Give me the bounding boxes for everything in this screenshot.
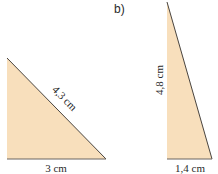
triangle-b-height-label: 4,8 cm [153, 65, 165, 95]
figure-b-label: b) [114, 2, 125, 16]
triangle-b: 4,8 cm 1,4 cm [153, 2, 212, 174]
triangle-a-base-label: 3 cm [45, 162, 67, 174]
diagram-canvas: 4,3 cm 3 cm b) 4,8 cm 1,4 cm [0, 0, 218, 174]
triangle-b-base-label: 1,4 cm [175, 162, 205, 174]
triangle-a: 4,3 cm 3 cm [7, 58, 106, 174]
